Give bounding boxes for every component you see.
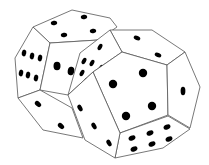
pip-icon [54, 62, 61, 70]
front-die-face-right [167, 52, 200, 128]
pip-icon [109, 80, 117, 88]
pip-icon [181, 87, 186, 95]
dice-illustration [0, 0, 209, 165]
front-die [68, 30, 200, 158]
pip-icon [122, 112, 130, 120]
pip-icon [148, 102, 156, 110]
dice-drawing [0, 0, 209, 165]
pip-icon [139, 69, 147, 77]
